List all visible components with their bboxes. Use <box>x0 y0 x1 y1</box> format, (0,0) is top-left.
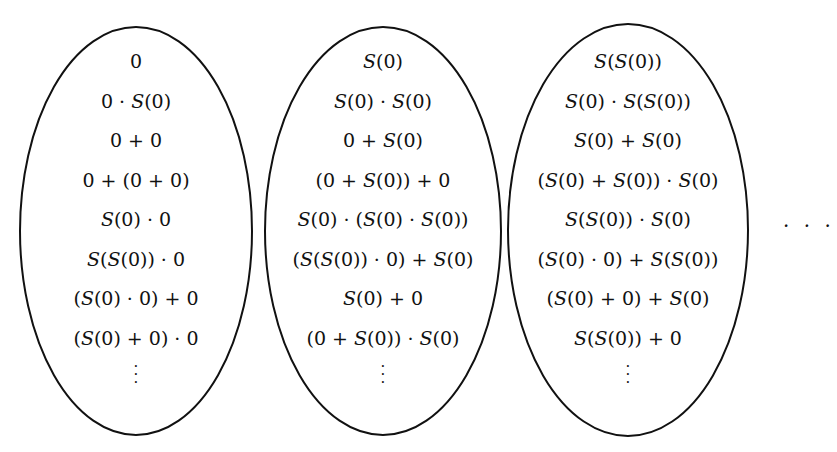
term: S(S(0)) <box>594 42 662 82</box>
term: S(S(0)) + 0 <box>574 319 682 359</box>
term-list-class-1: S(0) S(0) · S(0) 0 + S(0) (0 + S(0)) + 0… <box>268 42 498 386</box>
term: S(0) · (S(0) · S(0)) <box>298 200 469 240</box>
term: 0 + S(0) <box>343 121 423 161</box>
term: 0 + (0 + 0) <box>82 161 189 201</box>
term: (S(S(0)) · 0) + S(0) <box>293 240 474 280</box>
term: 0 + 0 <box>110 121 162 161</box>
term: (S(0) · 0) + 0 <box>73 279 198 319</box>
term-list-class-0: 0 0 · S(0) 0 + 0 0 + (0 + 0) S(0) · 0 S(… <box>36 42 236 386</box>
term: 0 · S(0) <box>101 82 171 122</box>
term: S(0) · S(S(0)) <box>565 82 691 122</box>
term: S(0) <box>363 42 403 82</box>
term: (0 + S(0)) · S(0) <box>307 319 460 359</box>
term: S(S(0)) · 0 <box>87 240 185 280</box>
term: S(S(0)) · S(0) <box>565 200 691 240</box>
horizontal-ellipsis: · · · <box>783 214 835 238</box>
term: S(0) · S(0) <box>334 82 432 122</box>
term: (S(0) · 0) + S(S(0)) <box>538 240 719 280</box>
vertical-ellipsis: ··· <box>626 362 631 386</box>
term: S(0) · 0 <box>101 200 171 240</box>
vertical-ellipsis: ··· <box>134 362 139 386</box>
term: (S(0) + 0) + S(0) <box>547 279 710 319</box>
term: (0 + S(0)) + 0 <box>316 161 451 201</box>
term: S(0) + 0 <box>343 279 423 319</box>
vertical-ellipsis: ··· <box>381 362 386 386</box>
term-list-class-2: S(S(0)) S(0) · S(S(0)) S(0) + S(0) (S(0)… <box>510 42 746 386</box>
term: (S(0) + S(0)) · S(0) <box>538 161 719 201</box>
term: S(0) + S(0) <box>574 121 682 161</box>
term: 0 <box>130 42 142 82</box>
term: (S(0) + 0) · 0 <box>73 319 198 359</box>
